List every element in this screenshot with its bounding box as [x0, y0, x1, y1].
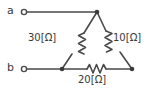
- node-bottom-right-dot: [130, 67, 135, 72]
- resistor-left-label: 30[Ω]: [28, 33, 56, 43]
- circuit-diagram: a b 30[Ω] 10[Ω] 20[Ω]: [0, 0, 154, 92]
- branch-right-wire-lower: [120, 52, 132, 69]
- resistor-bottom-label: 20[Ω]: [78, 75, 106, 85]
- terminal-b-circle: [21, 66, 26, 71]
- branch-left-wire-upper: [84, 12, 97, 33]
- node-apex-dot: [95, 10, 100, 15]
- terminal-a-circle: [21, 9, 26, 14]
- resistor-left-zigzag: [79, 33, 86, 54]
- resistor-bottom-zigzag: [87, 65, 106, 74]
- branch-right-wire-upper: [97, 12, 106, 31]
- resistor-right-label: 10[Ω]: [113, 33, 141, 43]
- node-bottom-left-dot: [60, 67, 65, 72]
- terminal-a-label: a: [7, 5, 14, 16]
- branch-left-wire-lower: [62, 54, 72, 69]
- terminal-b-label: b: [7, 62, 14, 73]
- resistor-right-zigzag: [105, 31, 112, 52]
- circuit-svg: [0, 0, 154, 92]
